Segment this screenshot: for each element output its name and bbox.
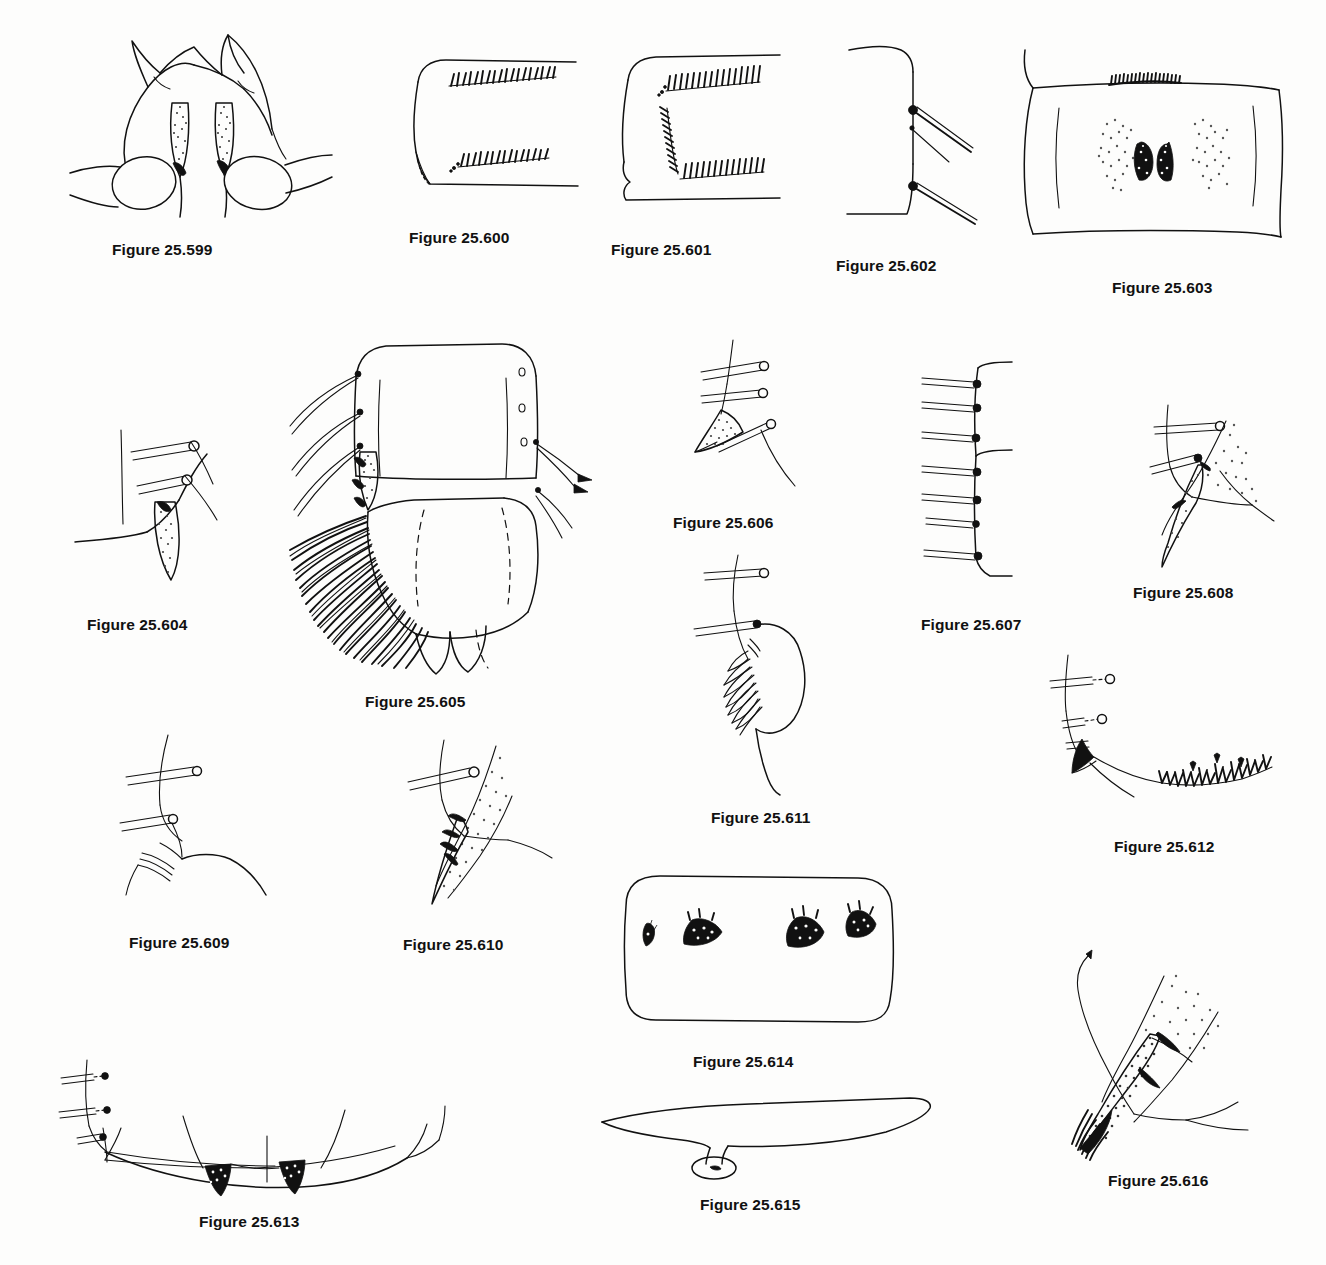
caption-25-613: Figure 25.613 [199, 1213, 299, 1231]
figure-25-614-art [620, 868, 900, 1028]
caption-25-604: Figure 25.604 [87, 616, 187, 634]
figure-25-616-art [1040, 950, 1275, 1160]
figure-25-599-art [70, 25, 335, 225]
figure-25-609-art [120, 735, 280, 900]
caption-25-609: Figure 25.609 [129, 934, 229, 952]
caption-25-603: Figure 25.603 [1112, 279, 1212, 297]
caption-25-600: Figure 25.600 [409, 229, 509, 247]
figure-25-605-art [290, 330, 610, 675]
figure-25-602-art [845, 36, 990, 221]
caption-25-614: Figure 25.614 [693, 1053, 793, 1071]
figure-25-610-art [400, 740, 565, 915]
figure-25-607-art [920, 360, 1035, 595]
figure-25-600-art [404, 48, 584, 203]
figure-25-608-art [1120, 405, 1275, 570]
caption-25-605: Figure 25.605 [365, 693, 465, 711]
figure-25-603-art [1015, 40, 1285, 245]
caption-25-608: Figure 25.608 [1133, 584, 1233, 602]
caption-25-601: Figure 25.601 [611, 241, 711, 259]
illustration-plate: Figure 25.599 [0, 0, 1326, 1265]
caption-25-602: Figure 25.602 [836, 257, 936, 275]
caption-25-599: Figure 25.599 [112, 241, 212, 259]
figure-25-604-art [75, 420, 250, 585]
caption-25-611: Figure 25.611 [711, 809, 811, 827]
caption-25-607: Figure 25.607 [921, 616, 1021, 634]
figure-25-615-art [600, 1090, 935, 1180]
caption-25-610: Figure 25.610 [403, 936, 503, 954]
caption-25-612: Figure 25.612 [1114, 838, 1214, 856]
caption-25-606: Figure 25.606 [673, 514, 773, 532]
caption-25-616: Figure 25.616 [1108, 1172, 1208, 1190]
caption-25-615: Figure 25.615 [700, 1196, 800, 1214]
figure-25-601-art [610, 46, 785, 216]
figure-25-606-art [665, 340, 810, 495]
figure-25-612-art [1010, 655, 1280, 815]
figure-25-611-art [690, 555, 845, 795]
figure-25-613-art [55, 1040, 450, 1195]
